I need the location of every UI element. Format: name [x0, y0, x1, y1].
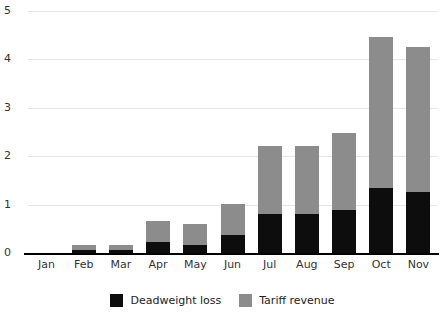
x-tick-label-jan: Jan [28, 258, 65, 272]
y-tick-label-0: 0 [4, 247, 26, 258]
legend-swatch-deadweight-loss [110, 294, 123, 307]
bar-group-apr [146, 221, 170, 253]
bar-segment-deadweight-loss-aug [295, 214, 319, 253]
bar-group-jul [258, 146, 282, 253]
y-tick-label-2: 2 [4, 150, 26, 161]
bar-segment-tariff-revenue-jun [221, 204, 245, 235]
bar-segment-deadweight-loss-jun [221, 235, 245, 253]
legend-label-deadweight-loss: Deadweight loss [130, 295, 221, 306]
legend-entry-tariff-revenue[interactable]: Tariff revenue [239, 294, 334, 307]
bar-group-aug [295, 146, 319, 253]
legend-swatch-tariff-revenue [239, 294, 252, 307]
y-tick-label-1: 1 [4, 199, 26, 210]
x-tick-label-aug: Aug [288, 258, 325, 272]
x-axis-line [24, 253, 439, 255]
x-tick-label-may: May [177, 258, 214, 272]
bar-segment-tariff-revenue-feb [72, 245, 96, 250]
bars-layer [28, 0, 437, 253]
y-tick-label-4: 4 [4, 53, 26, 64]
bar-group-oct [369, 37, 393, 253]
bar-segment-tariff-revenue-nov [406, 47, 430, 192]
x-tick-label-sep: Sep [325, 258, 362, 272]
bar-segment-deadweight-loss-oct [369, 188, 393, 253]
x-axis: JanFebMarAprMayJunJulAugSepOctNov [28, 258, 437, 274]
bar-group-nov [406, 47, 430, 253]
bar-segment-deadweight-loss-nov [406, 192, 430, 253]
bar-group-feb [72, 245, 96, 253]
y-tick-label-5: 5 [4, 5, 26, 16]
bar-group-may [183, 224, 207, 253]
x-tick-label-nov: Nov [400, 258, 437, 272]
bar-segment-deadweight-loss-may [183, 245, 207, 253]
x-tick-label-apr: Apr [140, 258, 177, 272]
bar-segment-tariff-revenue-sep [332, 133, 356, 210]
bar-group-jun [221, 204, 245, 253]
y-axis: 012345 [0, 0, 26, 320]
bar-segment-tariff-revenue-oct [369, 37, 393, 188]
stacked-bar-chart: 012345 JanFebMarAprMayJunJulAugSepOctNov… [0, 0, 445, 320]
bar-group-sep [332, 133, 356, 253]
x-tick-label-feb: Feb [65, 258, 102, 272]
x-tick-label-jul: Jul [251, 258, 288, 272]
x-tick-label-oct: Oct [363, 258, 400, 272]
bar-group-mar [109, 245, 133, 253]
x-tick-label-mar: Mar [102, 258, 139, 272]
x-tick-label-jun: Jun [214, 258, 251, 272]
legend-label-tariff-revenue: Tariff revenue [259, 295, 334, 306]
chart-legend: Deadweight lossTariff revenue [0, 291, 445, 309]
legend-entry-deadweight-loss[interactable]: Deadweight loss [110, 294, 221, 307]
bar-segment-tariff-revenue-jul [258, 146, 282, 215]
bar-segment-tariff-revenue-may [183, 224, 207, 244]
bar-segment-tariff-revenue-apr [146, 221, 170, 243]
bar-segment-deadweight-loss-apr [146, 242, 170, 253]
y-tick-label-3: 3 [4, 102, 26, 113]
bar-segment-tariff-revenue-mar [109, 245, 133, 250]
bar-segment-deadweight-loss-sep [332, 210, 356, 253]
bar-segment-tariff-revenue-aug [295, 146, 319, 215]
bar-segment-deadweight-loss-jul [258, 214, 282, 253]
